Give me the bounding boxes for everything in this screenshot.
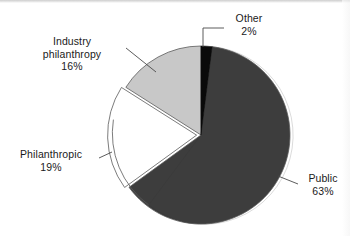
slice-label-philanthropic-name: Philanthropic <box>20 148 82 160</box>
slice-label-other: Other 2% <box>226 12 272 37</box>
slice-label-industry-line2: philanthropy <box>20 48 124 61</box>
slice-label-other-value: 2% <box>226 25 272 38</box>
slice-label-public: Public 63% <box>300 172 346 197</box>
slice-label-philanthropic-value: 19% <box>6 161 96 174</box>
slice-label-industry-line1: Industry <box>53 35 91 47</box>
slice-label-public-value: 63% <box>300 185 346 198</box>
pie-chart-figure: Other 2% Industry philanthropy 16% Phila… <box>0 0 350 236</box>
slice-label-other-name: Other <box>236 12 263 24</box>
slice-label-industry-value: 16% <box>20 60 124 73</box>
leader-line-other <box>203 28 224 47</box>
leader-line-industry-philanthropy <box>126 48 156 72</box>
slice-label-industry-philanthropy: Industry philanthropy 16% <box>20 35 124 73</box>
slice-label-philanthropic: Philanthropic 19% <box>6 148 96 173</box>
slice-label-public-name: Public <box>308 172 337 184</box>
